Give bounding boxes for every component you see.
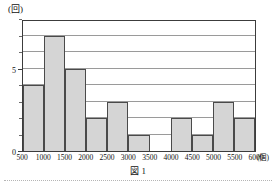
bar-slot — [44, 21, 65, 151]
x-axis-unit-label: (個) — [257, 153, 269, 163]
x-axis-tick-label: 500 — [16, 153, 27, 163]
figure-caption: 図 1 — [0, 166, 276, 177]
bar — [192, 135, 213, 152]
x-axis-tick-label: 3500 — [142, 153, 157, 163]
bar — [171, 118, 192, 151]
bar-slot — [86, 21, 107, 151]
bar — [128, 135, 149, 152]
bar-slot — [171, 21, 192, 151]
x-axis-tick-label: 3000 — [121, 153, 136, 163]
y-axis-minor-tick — [19, 135, 22, 136]
y-axis-minor-tick — [19, 52, 22, 53]
bar — [86, 118, 107, 151]
x-axis-tick-label: 2500 — [100, 153, 115, 163]
bar — [44, 36, 65, 152]
y-axis-minor-tick — [19, 102, 22, 103]
x-axis-tick-labels: 5001000150020002500300035004000450050005… — [22, 153, 256, 165]
x-axis-tick-label: 1000 — [36, 153, 51, 163]
bar-slot — [128, 21, 149, 151]
bar-series — [23, 21, 255, 151]
x-axis-tick-label: 1500 — [57, 153, 72, 163]
y-axis-tick — [18, 151, 22, 152]
plot-area — [22, 20, 256, 152]
bar-slot — [107, 21, 128, 151]
bar — [234, 118, 255, 151]
figure-1: (回) 05 500100015002000250030003500400045… — [0, 0, 276, 184]
y-axis-minor-tick — [19, 19, 22, 20]
y-axis-unit-label: (回) — [8, 4, 23, 15]
y-axis-minor-tick — [19, 118, 22, 119]
y-axis-minor-tick — [19, 85, 22, 86]
bar — [213, 102, 234, 152]
x-axis-tick-label: 2000 — [78, 153, 93, 163]
y-axis-tick-label: 5 — [12, 65, 16, 74]
bottom-divider — [4, 180, 272, 181]
bar — [23, 85, 44, 151]
bar-slot — [150, 21, 171, 151]
bar-slot — [234, 21, 255, 151]
x-axis-tick-label: 5000 — [206, 153, 221, 163]
bar-slot — [192, 21, 213, 151]
y-axis-tick — [18, 69, 22, 70]
x-axis-tick-label: 4000 — [163, 153, 178, 163]
bar-slot — [23, 21, 44, 151]
y-axis-minor-tick — [19, 36, 22, 37]
bar — [107, 102, 128, 152]
bar — [65, 69, 86, 152]
x-axis-tick-label: 4500 — [185, 153, 200, 163]
bar-slot — [65, 21, 86, 151]
bar-slot — [213, 21, 234, 151]
x-axis-tick-label: 5500 — [227, 153, 242, 163]
